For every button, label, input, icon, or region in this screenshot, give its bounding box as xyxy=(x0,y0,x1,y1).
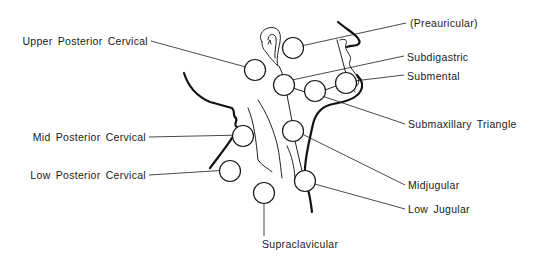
leader-midjugular xyxy=(300,133,405,185)
node-chain-subdigastric-to-mid xyxy=(287,95,292,121)
posterior-neck-outline xyxy=(184,73,238,168)
lymph-node-diagram: (Preauricular) Upper Posterior Cervical … xyxy=(0,0,539,261)
leader-upper-posterior-cervical xyxy=(151,41,253,69)
node-low-jugular xyxy=(295,171,316,192)
leader-low-posterior-cervical xyxy=(149,170,229,175)
leader-submental xyxy=(354,75,404,81)
node-submental xyxy=(336,73,357,94)
leader-preauricular xyxy=(301,23,406,46)
label-low-posterior-cervical: Low Posterior Cervical xyxy=(30,169,146,181)
node-subdigastric xyxy=(274,75,295,96)
node-chain-submax-to-submental xyxy=(325,86,336,90)
ear-helix-mark xyxy=(268,40,271,44)
face-profile-outline xyxy=(338,22,360,47)
label-submental: Submental xyxy=(407,70,460,82)
label-subdigastric: Subdigastric xyxy=(407,51,468,63)
ear-inner-outline xyxy=(268,34,276,58)
label-preauricular: (Preauricular) xyxy=(410,17,478,29)
label-supraclavicular: Supraclavicular xyxy=(262,238,338,250)
node-midjugular xyxy=(283,121,304,142)
leader-mid-posterior-cervical xyxy=(149,135,243,137)
ear-outline xyxy=(260,28,280,66)
muscle-line-2 xyxy=(258,100,282,178)
lymph-nodes xyxy=(220,38,357,204)
node-mid-posterior-cervical xyxy=(233,126,254,147)
node-chain-ear-to-subdigastric xyxy=(279,66,283,75)
node-submaxillary-triangle xyxy=(305,81,326,102)
label-mid-posterior-cervical: Mid Posterior Cervical xyxy=(33,131,146,143)
node-supraclavicular xyxy=(254,183,275,204)
node-low-posterior-cervical xyxy=(220,161,241,182)
leader-low-jugular xyxy=(311,183,405,209)
anatomy-outline xyxy=(184,22,362,212)
node-upper-posterior-cervical xyxy=(245,60,266,81)
label-submaxillary-triangle: Submaxillary Triangle xyxy=(408,118,517,130)
label-upper-posterior-cervical: Upper Posterior Cervical xyxy=(22,35,148,47)
labels: (Preauricular) Upper Posterior Cervical … xyxy=(22,17,516,250)
node-chain-mid-to-low xyxy=(295,141,302,171)
leader-submaxillary-triangle xyxy=(316,94,405,124)
muscle-line-3 xyxy=(287,146,295,178)
label-midjugular: Midjugular xyxy=(408,179,460,191)
label-low-jugular: Low Jugular xyxy=(408,203,470,215)
node-preauricular xyxy=(283,38,304,59)
node-chain-subdigastric-to-submax xyxy=(293,88,305,92)
